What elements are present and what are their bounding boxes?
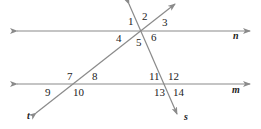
line-label-t: t — [27, 110, 31, 121]
angle-label-9: 9 — [45, 86, 51, 98]
line-label-s: s — [183, 111, 188, 122]
angle-label-8: 8 — [92, 70, 98, 82]
angle-label-7: 7 — [67, 70, 73, 82]
angle-label-10: 10 — [73, 86, 85, 98]
angle-label-4: 4 — [116, 32, 122, 44]
angle-label-14: 14 — [173, 86, 185, 98]
geometry-diagram: nmts1234567891011121314 — [0, 0, 261, 129]
angle-label-5: 5 — [136, 36, 142, 48]
angle-label-6: 6 — [151, 31, 157, 43]
angle-label-12: 12 — [168, 70, 179, 82]
line-label-m: m — [232, 84, 240, 95]
line-label-n: n — [233, 30, 239, 41]
lines-layer — [17, 4, 250, 114]
angle-label-3: 3 — [162, 16, 168, 28]
angle-label-2: 2 — [142, 10, 148, 22]
angle-label-11: 11 — [149, 70, 160, 82]
labels-layer: nmts1234567891011121314 — [27, 10, 240, 122]
angle-label-13: 13 — [154, 86, 166, 98]
angle-label-1: 1 — [128, 15, 134, 27]
